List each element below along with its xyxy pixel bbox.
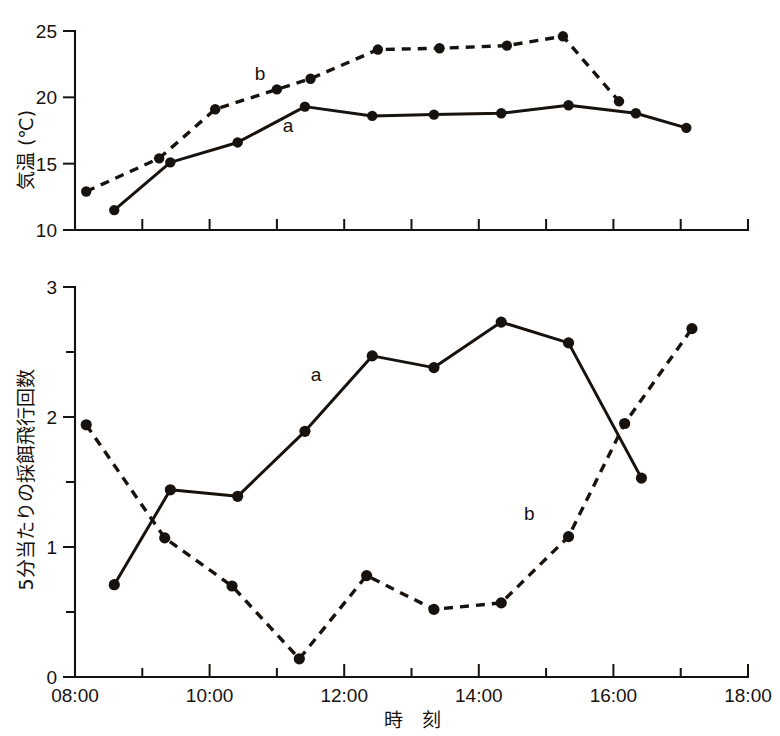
data-point-a bbox=[300, 101, 310, 111]
top-panel-series bbox=[86, 36, 686, 210]
series-line-b bbox=[86, 329, 692, 659]
data-point-b bbox=[226, 580, 237, 591]
y-tick-label: 20 bbox=[36, 87, 57, 108]
data-point-a bbox=[299, 426, 310, 437]
data-point-b bbox=[563, 531, 574, 542]
top-panel-series-labels: ba bbox=[255, 63, 294, 136]
data-point-b bbox=[159, 532, 170, 543]
data-point-b bbox=[558, 31, 568, 41]
data-point-b bbox=[272, 84, 282, 94]
x-tick-label: 12:00 bbox=[320, 685, 368, 706]
x-tick-label: 16:00 bbox=[590, 685, 638, 706]
axis-spine bbox=[75, 31, 748, 230]
data-point-a bbox=[636, 473, 647, 484]
data-point-a bbox=[232, 491, 243, 502]
x-tick-label: 10:00 bbox=[186, 685, 234, 706]
bottom-panel: 0123 08:0010:0012:0014:0016:0018:00 ab 5… bbox=[15, 277, 772, 731]
y-tick-label: 15 bbox=[36, 154, 57, 175]
data-point-b bbox=[154, 153, 164, 163]
data-point-b bbox=[373, 44, 383, 54]
data-point-a bbox=[165, 157, 175, 167]
y-tick-label: 3 bbox=[46, 277, 57, 298]
data-point-a bbox=[109, 205, 119, 215]
data-point-b bbox=[361, 570, 372, 581]
bottom-panel-series bbox=[86, 322, 692, 659]
x-tick-label: 18:00 bbox=[724, 685, 772, 706]
data-point-b bbox=[305, 74, 315, 84]
series-annotation-a: a bbox=[311, 364, 322, 385]
axis-spine bbox=[75, 287, 748, 677]
top-panel-axes bbox=[63, 31, 748, 230]
data-point-b bbox=[614, 96, 624, 106]
two-panel-line-chart: 10152025 ba 気温 (℃) 0123 08:0010:0012:001… bbox=[0, 0, 780, 736]
data-point-b bbox=[294, 653, 305, 664]
data-point-a bbox=[232, 137, 242, 147]
y-tick-label: 1 bbox=[46, 537, 57, 558]
data-point-a bbox=[496, 108, 506, 118]
x-tick-label: 14:00 bbox=[455, 685, 503, 706]
data-point-a bbox=[367, 350, 378, 361]
data-point-b bbox=[619, 418, 630, 429]
data-point-a bbox=[429, 109, 439, 119]
data-point-a bbox=[367, 111, 377, 121]
series-annotation-a: a bbox=[283, 115, 294, 136]
data-point-a bbox=[681, 123, 691, 133]
x-tick-label: 08:00 bbox=[51, 685, 99, 706]
bottom-panel-x-axis-title: 時 刻 bbox=[384, 709, 441, 731]
data-point-a bbox=[631, 108, 641, 118]
data-point-b bbox=[210, 104, 220, 114]
top-panel-ytick-labels: 10152025 bbox=[36, 21, 57, 241]
bottom-panel-markers bbox=[81, 317, 698, 665]
bottom-panel-ytick-labels: 0123 bbox=[46, 277, 57, 688]
top-panel-y-axis-title: 気温 (℃) bbox=[15, 110, 37, 190]
data-point-b bbox=[81, 186, 91, 196]
data-point-a bbox=[165, 484, 176, 495]
figure-container: 10152025 ba 気温 (℃) 0123 08:0010:0012:001… bbox=[0, 0, 780, 736]
y-tick-label: 2 bbox=[46, 407, 57, 428]
bottom-panel-xtick-labels: 08:0010:0012:0014:0016:0018:00 bbox=[51, 685, 772, 706]
y-tick-label: 10 bbox=[36, 220, 57, 241]
data-point-b bbox=[434, 43, 444, 53]
data-point-a bbox=[563, 337, 574, 348]
top-panel: 10152025 ba 気温 (℃) bbox=[15, 21, 748, 241]
data-point-a bbox=[496, 317, 507, 328]
data-point-b bbox=[686, 323, 697, 334]
data-point-b bbox=[81, 419, 92, 430]
series-line-a bbox=[114, 322, 641, 585]
data-point-a bbox=[563, 100, 573, 110]
data-point-a bbox=[428, 362, 439, 373]
data-point-b bbox=[502, 40, 512, 50]
bottom-panel-y-axis-title: 5分当たりの採餌飛行回数 bbox=[15, 369, 37, 590]
data-point-b bbox=[428, 604, 439, 615]
series-annotation-b: b bbox=[255, 63, 266, 84]
data-point-a bbox=[109, 579, 120, 590]
data-point-b bbox=[496, 597, 507, 608]
y-tick-label: 25 bbox=[36, 21, 57, 42]
series-annotation-b: b bbox=[524, 503, 535, 524]
top-panel-markers bbox=[81, 31, 691, 215]
